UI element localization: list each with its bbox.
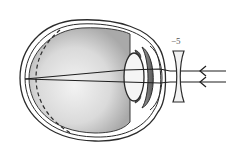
ray-arrowheads [200,66,206,87]
crystalline-lens [124,53,144,101]
myopia-correction-diagram: −5 [0,0,245,151]
concave-lens [173,51,184,102]
lens-power-label: −5 [171,36,181,46]
eye-diagram-svg [0,0,245,151]
